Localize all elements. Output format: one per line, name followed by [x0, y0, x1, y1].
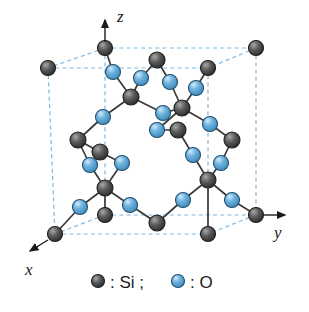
oxygen-atom	[83, 158, 98, 173]
oxygen-atom	[106, 65, 121, 80]
oxygen-atom	[96, 110, 111, 125]
silicon-atom	[149, 52, 165, 68]
y-axis-label: y	[272, 223, 282, 242]
legend-silicon-label: : Si ;	[110, 273, 144, 292]
silicon-atom	[201, 227, 216, 242]
oxygen-atom	[123, 198, 138, 213]
silicon-atom	[98, 208, 113, 223]
silicon-atom	[170, 122, 186, 138]
oxygen-atom	[134, 71, 149, 86]
z-axis-label: z	[116, 7, 124, 26]
silicon-atom	[41, 61, 56, 76]
cell-edge-top-left-depth	[48, 48, 105, 68]
oxygen-atom	[186, 148, 201, 163]
x-axis-label: x	[24, 260, 33, 279]
oxygen-atom	[115, 156, 130, 171]
silicon-atom	[97, 180, 113, 196]
oxygen-atom	[214, 156, 229, 171]
silicon-atom	[201, 61, 216, 76]
oxygen-atom	[156, 106, 171, 121]
legend-oxygen-icon	[172, 275, 185, 288]
oxygen-atom	[225, 193, 240, 208]
oxygen-atom	[176, 193, 191, 208]
legend-oxygen-label: : O	[190, 273, 213, 292]
cell-edge-vert-front-left	[48, 68, 55, 234]
legend-silicon-icon	[92, 275, 105, 288]
silicon-atom	[98, 41, 113, 56]
x-axis-arrow	[30, 240, 48, 251]
sio2-crystal-figure: z y x : Si ; : O	[0, 0, 309, 312]
crystal-structure-diagram: z y x : Si ; : O	[0, 0, 309, 312]
oxygen-atom	[73, 200, 88, 215]
legend: : Si ; : O	[92, 273, 213, 292]
silicon-atom	[224, 132, 240, 148]
axes-group: z y x	[24, 7, 285, 279]
oxygen-atom	[163, 75, 178, 90]
oxygen-atom	[189, 81, 204, 96]
oxygen-atom	[150, 123, 165, 138]
oxygen-atom	[203, 117, 218, 132]
silicon-atom	[48, 227, 63, 242]
silicon-atom	[92, 144, 108, 160]
silicon-atom	[149, 215, 165, 231]
silicon-atom	[200, 172, 216, 188]
silicon-atom	[249, 208, 264, 223]
silicon-atom	[70, 132, 86, 148]
silicon-atom	[123, 89, 139, 105]
silicon-atom	[249, 41, 264, 56]
silicon-atom	[174, 100, 190, 116]
